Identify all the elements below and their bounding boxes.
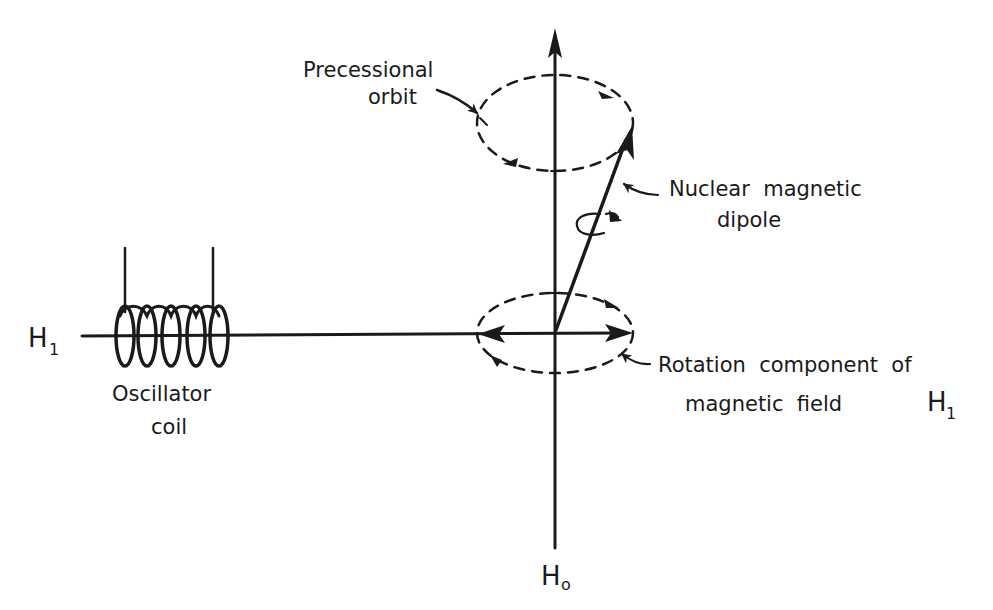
precessional-orbit-label: Precessional xyxy=(303,58,433,82)
h0-axis-subscript: o xyxy=(561,575,571,594)
orbit-arrow-icon xyxy=(598,91,614,99)
rotation-arrow-icon xyxy=(490,355,502,367)
oscillator-coil-label-line2: coil xyxy=(151,415,187,439)
precessional-orbit-label-line2: orbit xyxy=(368,85,417,109)
rotation-h1-subscript: 1 xyxy=(946,404,956,423)
nmr-diagram: Precessional orbit Nuclear magnetic dipo… xyxy=(0,0,993,610)
nuclear-dipole-label-line2: dipole xyxy=(717,208,781,232)
spin-arrowhead-icon xyxy=(609,210,622,222)
spin-arrow xyxy=(577,210,622,235)
rotation-arrow-icon xyxy=(604,299,619,308)
oscillator-coil xyxy=(116,248,228,366)
h1-axis-symbol: H xyxy=(28,323,48,353)
rotation-component-label: Rotation component of xyxy=(658,353,912,377)
rotation-h1-symbol: H xyxy=(927,387,947,417)
h0-axis-symbol: H xyxy=(541,561,561,591)
nuclear-dipole-label: Nuclear magnetic xyxy=(669,177,862,201)
vertical-axis-h0 xyxy=(548,28,562,548)
rotation-component-label-line2: magnetic field xyxy=(685,392,842,416)
h1-axis-subscript: 1 xyxy=(49,340,59,359)
horizontal-axis-h1 xyxy=(82,324,633,343)
oscillator-coil-label: Oscillator xyxy=(112,382,211,406)
leader-arrows xyxy=(437,90,658,364)
